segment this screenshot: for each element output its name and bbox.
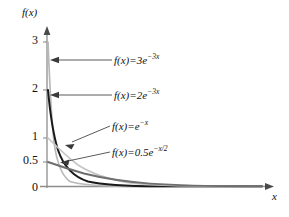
annotation-e-x-lead: f(x) xyxy=(112,120,127,132)
annotation-2e-3x: f(x)=2e−3x xyxy=(114,87,159,101)
annotation-e-x: f(x)=e−x xyxy=(112,118,148,132)
exponential-decay-figure: f(x) x 3 2 1 0.5 0 f(x)=3e−3x f(x)=2e−3x… xyxy=(0,0,289,217)
annotation-3e-3x-exp: −3x xyxy=(147,52,159,61)
annotation-e-x-exp: −x xyxy=(140,118,148,127)
leader-line-e-x xyxy=(72,126,110,142)
y-axis-label-paren: (x) xyxy=(25,6,37,18)
annotation-e-x-eq: = xyxy=(127,120,134,132)
annotation-3e-3x-lead: f(x) xyxy=(114,54,129,66)
annotation-3e-3x-eq: =3 xyxy=(129,54,142,66)
annotation-2e-3x-eq: =2 xyxy=(129,89,142,101)
annotation-05e-x2-lead: f(x) xyxy=(112,146,127,158)
annotation-05e-x2-exp: −x/2 xyxy=(153,144,167,153)
y-tick-label-3: 3 xyxy=(16,33,38,48)
x-axis-label: x xyxy=(272,190,277,202)
annotation-05e-x2: f(x)=0.5e−x/2 xyxy=(112,144,168,158)
leader-arrow-3e-3x xyxy=(50,57,59,63)
plot-canvas xyxy=(0,0,289,217)
y-tick-label-05: 0.5 xyxy=(8,153,38,168)
y-axis-label: f(x) xyxy=(22,6,37,18)
y-axis-arrowhead xyxy=(44,26,51,35)
y-tick-label-0: 0 xyxy=(16,180,38,195)
y-tick-label-1: 1 xyxy=(16,129,38,144)
annotation-2e-3x-lead: f(x) xyxy=(114,89,129,101)
annotation-05e-x2-eq: =0.5 xyxy=(127,146,148,158)
x-axis-arrowhead xyxy=(265,183,274,190)
leader-line-05e-x2 xyxy=(68,152,110,161)
annotation-3e-3x: f(x)=3e−3x xyxy=(114,52,159,66)
leader-arrow-e-x xyxy=(65,144,75,150)
annotation-2e-3x-exp: −3x xyxy=(147,87,159,96)
y-tick-label-2: 2 xyxy=(16,81,38,96)
